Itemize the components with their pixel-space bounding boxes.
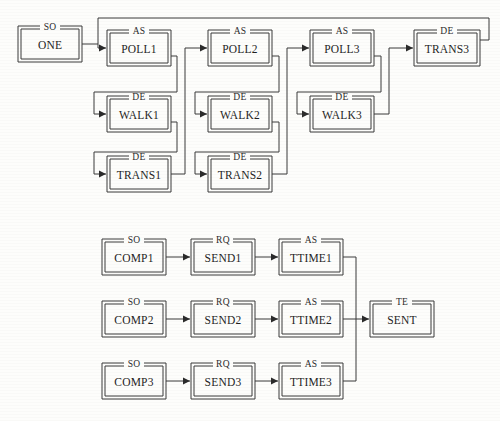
node-name-label: TTIME3: [290, 376, 332, 388]
node-name-label: POLL1: [121, 43, 157, 55]
node-comp2[interactable]: SOCOMP2: [102, 297, 166, 337]
arrow-column3-bus-to-trans3: [406, 45, 413, 52]
node-kind-label: DE: [335, 92, 348, 102]
node-kind-label: AS: [234, 26, 247, 36]
node-kind-label: DE: [233, 92, 246, 102]
node-layer: SOONEASPOLL1DEWALK1DETRANS1ASPOLL2DEWALK…: [18, 22, 480, 399]
arrow-walk1-to-trans1: [99, 171, 106, 178]
node-name-label: POLL2: [222, 43, 258, 55]
node-send2[interactable]: RQSEND2: [191, 297, 255, 337]
node-name-label: TRANS2: [218, 169, 263, 181]
node-one[interactable]: SOONE: [18, 22, 82, 62]
diagram-canvas: SOONEASPOLL1DEWALK1DETRANS1ASPOLL2DEWALK…: [0, 0, 500, 421]
arrow-comp3-to-send3: [183, 378, 190, 385]
node-kind-label: DE: [132, 152, 145, 162]
node-kind-label: RQ: [216, 235, 230, 245]
arrow-poll2-to-walk2: [200, 111, 207, 118]
edge-walk1-to-trans1: [94, 122, 177, 174]
node-trans3[interactable]: DETRANS3: [414, 26, 480, 66]
arrow-column1-bus-to-poll2: [200, 45, 207, 52]
node-kind-label: RQ: [216, 297, 230, 307]
arrow-one-to-poll1: [99, 45, 106, 52]
node-name-label: SENT: [387, 314, 417, 326]
node-kind-label: TE: [396, 297, 408, 307]
node-kind-label: SO: [128, 297, 141, 307]
node-comp1[interactable]: SOCOMP1: [102, 235, 166, 275]
node-kind-label: AS: [305, 359, 318, 369]
node-ttime1[interactable]: ASTTIME1: [279, 235, 343, 275]
node-name-label: ONE: [38, 39, 62, 51]
node-name-label: WALK3: [322, 109, 362, 121]
node-poll1[interactable]: ASPOLL1: [107, 26, 171, 66]
edge-trans3-feedback-to-poll1: [98, 18, 489, 44]
node-name-label: TTIME1: [290, 252, 332, 264]
arrow-poll1-to-walk1: [99, 111, 106, 118]
node-ttime3[interactable]: ASTTIME3: [279, 359, 343, 399]
arrow-column2-bus-to-poll3: [302, 45, 309, 52]
arrow-send2-to-ttime2: [271, 316, 278, 323]
node-name-label: POLL3: [324, 43, 360, 55]
node-kind-label: RQ: [216, 359, 230, 369]
edge-ttime3-to-merge-bus: [343, 319, 356, 381]
edge-column1-bus-to-poll2: [171, 48, 207, 174]
node-kind-label: SO: [128, 235, 141, 245]
node-kind-label: AS: [305, 235, 318, 245]
node-name-label: TTIME2: [290, 314, 332, 326]
node-name-label: COMP1: [114, 252, 153, 264]
node-name-label: TRANS3: [425, 43, 470, 55]
node-send3[interactable]: RQSEND3: [191, 359, 255, 399]
node-name-label: TRANS1: [117, 169, 162, 181]
node-trans1[interactable]: DETRANS1: [107, 152, 171, 192]
node-ttime2[interactable]: ASTTIME2: [279, 297, 343, 337]
arrow-send1-to-ttime1: [271, 254, 278, 261]
node-name-label: SEND2: [205, 314, 242, 326]
arrow-comp1-to-send1: [183, 254, 190, 261]
arrow-poll3-to-walk3: [302, 111, 309, 118]
node-walk2[interactable]: DEWALK2: [208, 92, 272, 132]
edge-column2-bus-to-poll3: [272, 48, 309, 174]
node-kind-label: AS: [133, 26, 146, 36]
node-name-label: SEND3: [205, 376, 242, 388]
node-kind-label: SO: [128, 359, 141, 369]
node-name-label: SEND1: [205, 252, 242, 264]
node-sent[interactable]: TESENT: [370, 297, 434, 337]
node-poll2[interactable]: ASPOLL2: [208, 26, 272, 66]
node-kind-label: DE: [132, 92, 145, 102]
edge-column3-bus-to-trans3: [374, 48, 413, 114]
node-walk1[interactable]: DEWALK1: [107, 92, 171, 132]
arrow-comp2-to-send2: [183, 316, 190, 323]
arrow-merge-bus-to-sent: [362, 316, 369, 323]
edge-layer: [82, 18, 489, 384]
node-trans2[interactable]: DETRANS2: [208, 152, 272, 192]
node-name-label: WALK2: [220, 109, 260, 121]
node-send1[interactable]: RQSEND1: [191, 235, 255, 275]
node-kind-label: DE: [440, 26, 453, 36]
node-name-label: COMP3: [114, 376, 153, 388]
diagram-page: SOONEASPOLL1DEWALK1DETRANS1ASPOLL2DEWALK…: [0, 0, 500, 421]
edge-poll1-to-walk1: [94, 56, 177, 114]
arrow-send3-to-ttime3: [271, 378, 278, 385]
node-kind-label: AS: [336, 26, 349, 36]
node-comp3[interactable]: SOCOMP3: [102, 359, 166, 399]
node-name-label: WALK1: [119, 109, 159, 121]
edge-ttime1-to-merge-bus: [343, 257, 356, 319]
node-kind-label: AS: [305, 297, 318, 307]
node-kind-label: SO: [44, 22, 57, 32]
node-poll3[interactable]: ASPOLL3: [310, 26, 374, 66]
node-kind-label: DE: [233, 152, 246, 162]
arrow-walk2-to-trans2: [200, 171, 207, 178]
node-walk3[interactable]: DEWALK3: [310, 92, 374, 132]
node-name-label: COMP2: [114, 314, 153, 326]
